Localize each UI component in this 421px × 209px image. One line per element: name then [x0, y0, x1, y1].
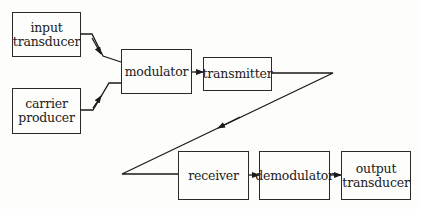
- block-modulator: modulator: [121, 49, 192, 94]
- block-label: receiver: [188, 169, 239, 183]
- block-label: modulator: [125, 65, 189, 79]
- block-label: demodulator: [255, 169, 334, 183]
- block-label: carrier producer: [18, 97, 74, 125]
- edge-input-to-modulator: [80, 34, 121, 62]
- block-carrier-producer: carrier producer: [12, 88, 81, 134]
- block-label: transmitter: [203, 67, 273, 81]
- block-input-transducer: input transducer: [12, 12, 81, 57]
- block-label: output transducer: [342, 162, 409, 190]
- block-label: input transducer: [13, 21, 80, 49]
- block-demodulator: demodulator: [259, 151, 330, 200]
- block-transmitter: transmitter: [203, 57, 272, 91]
- block-output-transducer: output transducer: [341, 151, 411, 200]
- block-receiver: receiver: [178, 151, 249, 200]
